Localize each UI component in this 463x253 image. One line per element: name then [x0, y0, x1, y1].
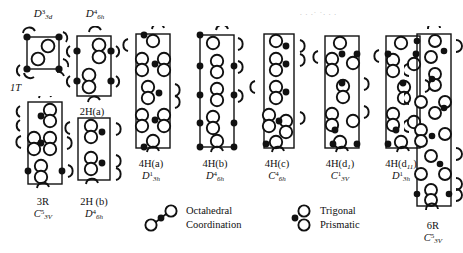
polytype-name-4Hb: 4H(b) [184, 158, 246, 169]
point-group-label-2Hb: D46h [64, 208, 124, 221]
point-group-label-4Ha: D13h [120, 170, 182, 183]
structure-cell-4Hc [248, 26, 310, 156]
structure-cell-4Ha [122, 26, 184, 156]
trigonal-prismatic-icon [288, 203, 314, 233]
point-group-label-4Hc: C46h [246, 170, 308, 183]
scan-noise-artifact: . . .· ·. . . [300, 9, 337, 17]
point-group-label-4Hd1: C13V [306, 170, 374, 183]
polytype-name-4Hc: 4H(c) [246, 158, 308, 169]
structure-cell-4Hd1 [310, 26, 374, 156]
legend-trigonal-line2: Prismatic [320, 218, 360, 232]
polytype-structure-figure: . . .· ·. . . [0, 0, 463, 253]
legend-octahedral-line1: Octahedral [186, 204, 241, 218]
point-group-label-4Hb: D46h [184, 170, 246, 183]
lattice-diagram-4Ha [122, 26, 184, 156]
lattice-diagram-4Hb [186, 26, 248, 156]
lattice-diagram-6R [404, 26, 463, 218]
structure-cell-4Hb [186, 26, 248, 156]
legend-octahedral-line2: Coordination [186, 218, 241, 232]
point-group-label-2Ha-top: D46h [64, 8, 126, 21]
lattice-diagram-2Hb [64, 112, 126, 190]
structure-cell-2Hb [64, 112, 126, 190]
polytype-name-6R: 6R [404, 220, 462, 231]
polytype-name-4Ha: 4H(a) [120, 158, 182, 169]
lattice-diagram-4Hc [248, 26, 310, 156]
lattice-diagram-4Hd1 [310, 26, 374, 156]
point-group-label-6R: C53V [404, 232, 462, 245]
legend-trigonal-text: Trigonal Prismatic [320, 204, 360, 232]
polytype-name-1T: 1T [10, 82, 56, 93]
legend-octahedral-text: Octahedral Coordination [186, 204, 241, 232]
polytype-name-2Hb: 2H (b) [64, 196, 124, 207]
legend-trigonal-line1: Trigonal [320, 204, 360, 218]
structure-cell-6R [404, 26, 463, 218]
legend-trigonal-prismatic: Trigonal Prismatic [288, 203, 360, 233]
legend-octahedral: Octahedral Coordination [142, 203, 241, 233]
octahedral-coordination-icon [142, 203, 180, 233]
